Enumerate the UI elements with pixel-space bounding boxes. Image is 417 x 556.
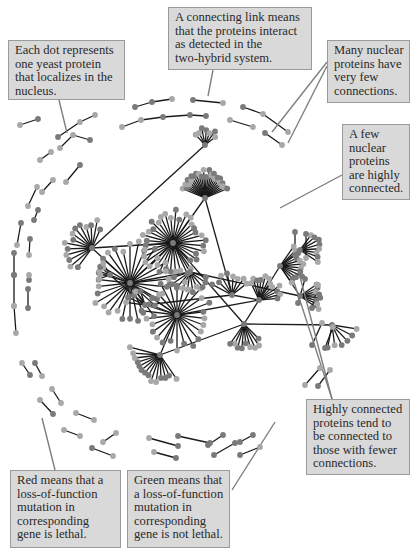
callout-connecting-link: A connecting link means that the protein… xyxy=(168,7,312,70)
callout-hubs-to-fewer: Highly connected proteins tend to be con… xyxy=(306,399,410,475)
callout-few-connections: Many nuclear proteins have very few conn… xyxy=(327,40,410,103)
callout-green-not-lethal: Green means that a loss-of-function muta… xyxy=(127,470,230,548)
callout-highly-connected: A few nuclear proteins are highly connec… xyxy=(342,124,410,200)
callout-each-dot: Each dot represents one yeast protein th… xyxy=(8,40,125,100)
callout-red-lethal: Red means that a loss-of-function mutati… xyxy=(10,470,121,548)
